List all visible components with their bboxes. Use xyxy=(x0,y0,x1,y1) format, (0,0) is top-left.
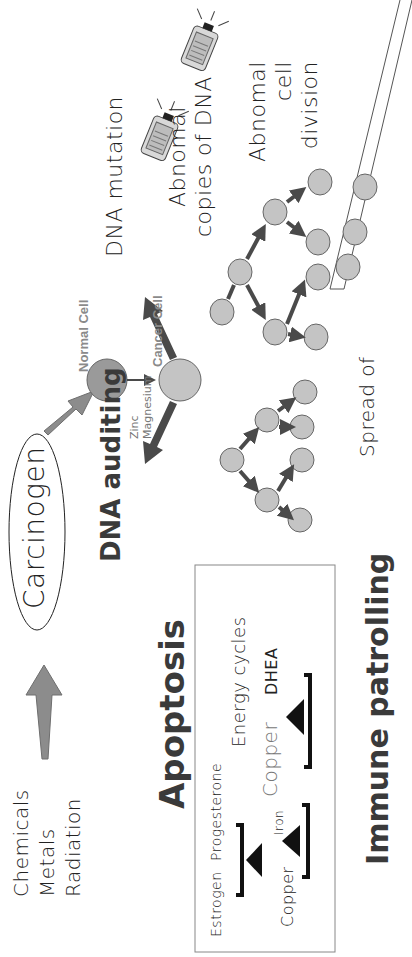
carcinogen-label: Carcinogen xyxy=(18,447,51,609)
balance-scale-icon xyxy=(236,825,262,895)
abnormal-division-label: Abnomal cell division xyxy=(245,61,323,162)
cancer-cell-label: Cancer Cell xyxy=(150,295,165,367)
immune-patrolling-title: Immune patrolling xyxy=(360,553,395,865)
cancer-cell-icon xyxy=(159,359,201,401)
balance-1-left: Estrogen xyxy=(208,871,224,937)
balance-2-left: Copper xyxy=(278,866,297,927)
nutrient-magnesium: Magnesium xyxy=(141,376,154,439)
apoptosis-title: Apoptosis xyxy=(152,619,192,809)
balance-scale-icon xyxy=(286,675,310,767)
dna-auditing-nutrients: Zinc Magnesium xyxy=(128,376,154,439)
sources-arrow-icon xyxy=(26,665,62,759)
spread-label: Spread of xyxy=(355,356,379,457)
balance-3-left: Copper xyxy=(258,722,282,797)
balance-2-right: Iron xyxy=(272,810,286,835)
balance-3-right: DHEA xyxy=(262,648,281,695)
immune-car-icon xyxy=(176,5,230,73)
source-chemicals: Chemicals xyxy=(8,789,34,897)
nutrient-zinc: Zinc xyxy=(128,376,141,439)
normal-cell-label: Normal Cell xyxy=(76,300,91,372)
dna-auditing-title: DNA auditing xyxy=(96,367,126,562)
carcinogen-to-normal-arrow-icon xyxy=(44,391,94,435)
source-metals: Metals xyxy=(34,789,60,897)
source-list: Chemicals Metals Radiation xyxy=(8,789,86,897)
dna-mutation-label: DNA mutation xyxy=(102,96,127,257)
carcinogenesis-diagram: Chemicals Metals Radiation Carcinogen DN… xyxy=(0,0,412,957)
blood-vessel-tube xyxy=(330,0,412,289)
lower-division-tree xyxy=(220,380,317,532)
source-radiation: Radiation xyxy=(60,789,86,897)
energy-cycles-caption: Energy cycles xyxy=(228,616,249,747)
upper-division-tree xyxy=(210,169,332,350)
abnormal-copies-label: Abnomal copies of DNA xyxy=(165,76,217,237)
balance-1-right: Progesterone xyxy=(208,763,224,861)
